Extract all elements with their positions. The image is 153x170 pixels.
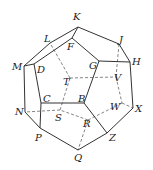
vertex-label-Z: Z [108,132,117,143]
vertex-label-D: D [36,64,45,75]
vertex-label-M: M [11,61,23,72]
vertex-label-X: X [134,103,143,114]
vertex-label-W: W [110,101,121,112]
vertex-label-B: B [77,93,85,104]
dodecahedron-figure: KJHXZQPNMLDFGBCTVWSR [0,0,153,170]
edge-JH [119,44,130,62]
vertex-label-G: G [89,60,97,71]
vertex-label-P: P [34,132,42,143]
edge-HX [130,62,133,108]
vertex-label-Q: Q [74,152,82,163]
edge-ZQ [78,133,107,150]
vertex-labels: KJHXZQPNMLDFGBCTVWSR [11,11,143,163]
vertex-label-K: K [72,11,81,22]
edge-PN [25,112,40,128]
edge-KJ [78,27,119,44]
hidden-edge-WX [122,103,133,108]
vertex-label-F: F [66,41,75,52]
vertex-label-N: N [14,106,25,117]
vertex-label-S: S [55,112,62,123]
edge-NM [24,66,25,112]
vertex-label-H: H [131,56,141,67]
edge-PC [40,103,41,128]
vertex-label-J: J [117,34,124,45]
edge-QP [40,128,78,150]
vertex-label-L: L [43,33,51,44]
dodecahedron-diagram: KJHXZQPNMLDFGBCTVWSR [0,0,153,170]
vertex-label-R: R [82,118,91,129]
edge-FG [72,38,99,61]
vertex-label-C: C [43,93,51,104]
vertex-label-V: V [114,72,123,83]
edge-HG [99,61,130,62]
